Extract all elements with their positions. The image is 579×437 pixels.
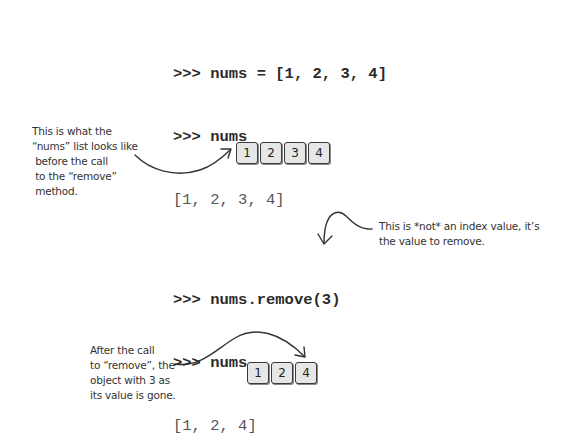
annotation-before-call: This is what the “nums” list looks like … <box>32 124 138 199</box>
list-item: 4 <box>308 142 330 164</box>
list-item: 3 <box>284 142 306 164</box>
annotation-not-index: This is *not* an index value, it’s the v… <box>379 219 539 249</box>
code-output: [1, 2, 4] <box>173 416 340 437</box>
list-item: 2 <box>260 142 282 164</box>
code-line: >>> nums.remove(3) <box>173 290 340 311</box>
list-item: 4 <box>295 362 317 384</box>
list-before-remove: 1 2 3 4 <box>236 142 332 164</box>
code-block-initial: >>> nums = [1, 2, 3, 4] >>> nums [1, 2, … <box>173 22 387 232</box>
list-item: 2 <box>271 362 293 384</box>
list-item: 1 <box>247 362 269 384</box>
code-output: [1, 2, 3, 4] <box>173 190 387 211</box>
list-item: 1 <box>236 142 258 164</box>
code-block-remove: >>> nums.remove(3) >>> nums [1, 2, 4] <box>173 248 340 437</box>
annotation-after-call: After the call to “remove”, the object w… <box>90 343 176 403</box>
list-after-remove: 1 2 4 <box>247 362 319 384</box>
code-line: >>> nums = [1, 2, 3, 4] <box>173 64 387 85</box>
